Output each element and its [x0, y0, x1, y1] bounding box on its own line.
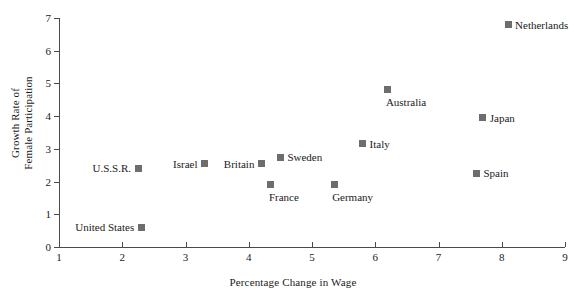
- point-label: Netherlands: [515, 19, 568, 31]
- x-tick-3: [186, 242, 187, 247]
- y-tick-7: [54, 18, 59, 19]
- x-axis-title: Percentage Change in Wage: [0, 276, 586, 288]
- x-tick-8: [502, 242, 503, 247]
- y-tick-label-0: 0: [31, 242, 51, 253]
- point-marker[interactable]: [384, 86, 391, 93]
- x-tick-label-2: 2: [112, 252, 132, 263]
- x-tick-label-1: 1: [49, 252, 69, 263]
- y-tick-4: [54, 116, 59, 117]
- point-label: Australia: [386, 96, 426, 108]
- scatter-chart: 01234567 123456789 United StatesU.S.S.R.…: [0, 0, 586, 303]
- y-tick-label-7: 7: [31, 13, 51, 24]
- x-tick-2: [122, 242, 123, 247]
- y-tick-6: [54, 51, 59, 52]
- point-marker[interactable]: [505, 21, 512, 28]
- x-axis-line: [59, 247, 565, 248]
- point-marker[interactable]: [258, 160, 265, 167]
- point-label: U.S.S.R.: [93, 162, 132, 174]
- point-label: Spain: [483, 167, 508, 179]
- point-marker[interactable]: [277, 154, 284, 161]
- point-label: Japan: [490, 112, 515, 124]
- point-label: Israel: [173, 158, 197, 170]
- y-axis-title-line-2: Female Participation: [22, 38, 35, 208]
- x-tick-label-9: 9: [555, 252, 575, 263]
- x-tick-label-5: 5: [302, 252, 322, 263]
- point-marker[interactable]: [359, 140, 366, 147]
- y-tick-2: [54, 182, 59, 183]
- x-tick-4: [249, 242, 250, 247]
- x-tick-1: [59, 242, 60, 247]
- point-marker[interactable]: [135, 165, 142, 172]
- y-axis-title-line-1: Growth Rate of: [9, 38, 22, 208]
- point-label: Britain: [224, 158, 255, 170]
- point-marker[interactable]: [331, 181, 338, 188]
- x-tick-6: [375, 242, 376, 247]
- x-tick-9: [565, 242, 566, 247]
- point-label: Germany: [332, 191, 373, 203]
- point-label: Italy: [370, 138, 390, 150]
- y-axis-line: [59, 18, 60, 247]
- point-marker[interactable]: [479, 114, 486, 121]
- x-tick-label-3: 3: [176, 252, 196, 263]
- y-tick-label-1: 1: [31, 209, 51, 220]
- x-tick-7: [439, 242, 440, 247]
- y-tick-5: [54, 83, 59, 84]
- y-tick-1: [54, 214, 59, 215]
- y-axis-title: Growth Rate of Female Participation: [9, 38, 35, 208]
- point-label: Sweden: [287, 151, 322, 163]
- point-marker[interactable]: [201, 160, 208, 167]
- x-tick-label-8: 8: [492, 252, 512, 263]
- point-marker[interactable]: [267, 181, 274, 188]
- point-label: France: [269, 191, 299, 203]
- x-tick-label-7: 7: [429, 252, 449, 263]
- point-marker[interactable]: [138, 224, 145, 231]
- y-tick-3: [54, 149, 59, 150]
- x-tick-5: [312, 242, 313, 247]
- y-tick-0: [54, 247, 59, 248]
- point-marker[interactable]: [473, 170, 480, 177]
- point-label: United States: [75, 221, 134, 233]
- x-tick-label-6: 6: [365, 252, 385, 263]
- x-tick-label-4: 4: [239, 252, 259, 263]
